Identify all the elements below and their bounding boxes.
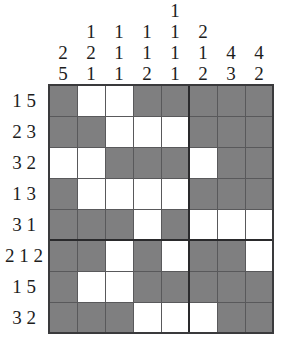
grid-cell-empty[interactable] — [105, 178, 133, 209]
grid-cell-empty[interactable] — [161, 116, 189, 147]
grid-cell-empty[interactable] — [133, 178, 161, 209]
grid-cell-filled[interactable] — [133, 271, 161, 302]
grid-cell-filled[interactable] — [105, 147, 133, 178]
clue-corner-spacer — [0, 42, 49, 63]
grid-cell-filled[interactable] — [189, 116, 217, 147]
grid-cell-empty[interactable] — [189, 302, 217, 333]
grid-cell-filled[interactable] — [133, 147, 161, 178]
grid-cell-filled[interactable] — [77, 209, 105, 240]
grid-cell-empty[interactable] — [77, 271, 105, 302]
column-clue-cell: 1 — [105, 42, 133, 63]
row-clue-cell: 3 2 — [0, 147, 49, 178]
grid-cell-filled[interactable] — [49, 240, 77, 271]
grid-cell-filled[interactable] — [49, 209, 77, 240]
grid-cell-filled[interactable] — [245, 147, 273, 178]
grid-cell-empty[interactable] — [105, 271, 133, 302]
grid-cell-empty[interactable] — [245, 209, 273, 240]
grid-cell-filled[interactable] — [105, 302, 133, 333]
clue-corner-spacer — [0, 63, 49, 85]
grid-cell-empty[interactable] — [77, 178, 105, 209]
column-clue-cell — [133, 0, 161, 21]
grid-cell-filled[interactable] — [189, 178, 217, 209]
grid-cell-empty[interactable] — [245, 240, 273, 271]
grid-cell-filled[interactable] — [245, 178, 273, 209]
column-clue-cell — [245, 21, 273, 42]
grid-cell-empty[interactable] — [161, 178, 189, 209]
grid-cell-filled[interactable] — [217, 178, 245, 209]
grid-cell-filled[interactable] — [49, 116, 77, 147]
grid-cell-empty[interactable] — [133, 116, 161, 147]
grid-cell-filled[interactable] — [217, 271, 245, 302]
column-clue-row: 51121232 — [0, 63, 273, 85]
grid-cell-filled[interactable] — [161, 209, 189, 240]
grid-cell-filled[interactable] — [217, 116, 245, 147]
grid-cell-filled[interactable] — [189, 271, 217, 302]
grid-cell-filled[interactable] — [245, 85, 273, 116]
column-clue-cell — [245, 0, 273, 21]
column-clue-cell: 1 — [161, 63, 189, 85]
grid-cell-empty[interactable] — [49, 147, 77, 178]
grid-cell-empty[interactable] — [161, 240, 189, 271]
grid-cell-filled[interactable] — [217, 302, 245, 333]
grid-cell-filled[interactable] — [161, 147, 189, 178]
grid-cell-empty[interactable] — [77, 85, 105, 116]
column-clue-cell: 2 — [189, 21, 217, 42]
clue-corner-spacer — [0, 21, 49, 42]
column-clue-cell: 1 — [161, 42, 189, 63]
row-clue-cell: 1 5 — [0, 271, 49, 302]
grid-cell-filled[interactable] — [245, 271, 273, 302]
column-clue-cell: 2 — [133, 63, 161, 85]
column-clue-cell: 5 — [49, 63, 77, 85]
grid-cell-empty[interactable] — [105, 85, 133, 116]
grid-cell-filled[interactable] — [77, 240, 105, 271]
grid-cell-empty[interactable] — [105, 240, 133, 271]
grid-cell-empty[interactable] — [77, 147, 105, 178]
grid-cell-filled[interactable] — [161, 271, 189, 302]
grid-cell-filled[interactable] — [217, 85, 245, 116]
grid-cell-empty[interactable] — [133, 209, 161, 240]
grid-cell-filled[interactable] — [49, 302, 77, 333]
grid-cell-filled[interactable] — [245, 116, 273, 147]
row-clue-cell: 1 5 — [0, 85, 49, 116]
grid-cell-filled[interactable] — [189, 85, 217, 116]
column-clue-cell — [217, 21, 245, 42]
column-clue-cell — [189, 0, 217, 21]
grid-cell-empty[interactable] — [105, 116, 133, 147]
row-clue-cell: 1 3 — [0, 178, 49, 209]
nonogram-row: 1 5 — [0, 85, 273, 116]
grid-cell-filled[interactable] — [217, 147, 245, 178]
grid-cell-filled[interactable] — [133, 240, 161, 271]
grid-cell-empty[interactable] — [161, 302, 189, 333]
column-clue-cell: 4 — [217, 42, 245, 63]
column-clue-row: 22111144 — [0, 42, 273, 63]
column-clue-cell: 1 — [105, 63, 133, 85]
grid-cell-filled[interactable] — [245, 302, 273, 333]
grid-cell-filled[interactable] — [189, 240, 217, 271]
column-clue-cell: 2 — [245, 63, 273, 85]
column-clue-cell: 1 — [133, 21, 161, 42]
grid-cell-empty[interactable] — [217, 209, 245, 240]
column-clue-row: 11112 — [0, 21, 273, 42]
grid-cell-filled[interactable] — [77, 302, 105, 333]
column-clue-cell — [105, 0, 133, 21]
column-clue-cell — [49, 21, 77, 42]
column-clue-cell: 1 — [189, 42, 217, 63]
column-clue-cell: 1 — [161, 21, 189, 42]
column-clue-cell: 1 — [105, 21, 133, 42]
column-clue-cell: 2 — [77, 42, 105, 63]
grid-cell-empty[interactable] — [189, 147, 217, 178]
grid-cell-empty[interactable] — [133, 302, 161, 333]
grid-cell-filled[interactable] — [105, 209, 133, 240]
row-clue-cell: 2 3 — [0, 116, 49, 147]
grid-cell-filled[interactable] — [133, 85, 161, 116]
grid-cell-filled[interactable] — [49, 271, 77, 302]
column-clue-cell: 1 — [77, 21, 105, 42]
nonogram-table: 11111222111144511212321 52 33 21 33 12 1… — [0, 0, 274, 334]
grid-cell-filled[interactable] — [77, 116, 105, 147]
grid-cell-filled[interactable] — [49, 178, 77, 209]
column-clue-cell — [49, 0, 77, 21]
grid-cell-filled[interactable] — [161, 85, 189, 116]
grid-cell-filled[interactable] — [217, 240, 245, 271]
grid-cell-filled[interactable] — [49, 85, 77, 116]
grid-cell-empty[interactable] — [189, 209, 217, 240]
